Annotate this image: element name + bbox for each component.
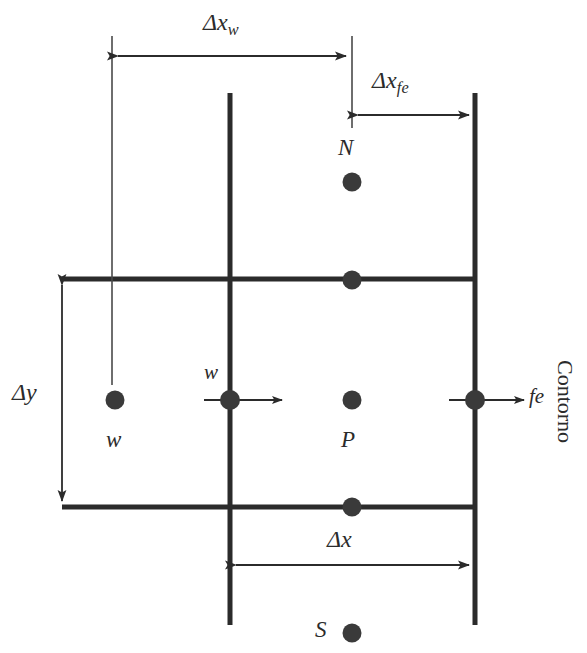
node-dot-s [343, 498, 362, 517]
face-dot-fe [465, 390, 485, 410]
node-label-P: P [341, 428, 355, 451]
boundary-label-contorno: Contorno [554, 360, 576, 443]
node-dot-W [106, 391, 125, 410]
dimension-label-dx-fe: Δxfe [372, 68, 409, 97]
node-label-N: N [338, 136, 353, 159]
dimension-label-dx-w: Δxw [203, 10, 239, 39]
node-dot-P [343, 391, 362, 410]
face-label-w: w [204, 362, 218, 383]
node-dot-n [343, 271, 362, 290]
node-label-W: w [106, 428, 121, 451]
dimension-label-dy: Δy [12, 380, 37, 404]
dimension-arrows [62, 56, 469, 565]
mesh-grid-lines [62, 93, 477, 625]
node-label-S: S [315, 618, 327, 641]
node-dot-S [343, 624, 362, 643]
dx-w-subscript: w [228, 20, 239, 39]
mesh-nodes [106, 173, 486, 643]
dy-symbol: Δy [12, 379, 37, 405]
dx-fe-subscript: fe [397, 78, 409, 97]
node-dot-N [343, 173, 362, 192]
face-label-fe: fe [529, 386, 544, 407]
dx-w-symbol: Δx [203, 9, 228, 35]
dimension-label-dx: Δx [327, 527, 352, 551]
face-dot-w [220, 390, 240, 410]
dx-fe-symbol: Δx [372, 67, 397, 93]
diagram-canvas: Δxw Δxfe Δx Δy N P S w w fe Contorno [0, 0, 587, 653]
diagram-graphics [0, 0, 587, 653]
dx-symbol: Δx [327, 526, 352, 552]
